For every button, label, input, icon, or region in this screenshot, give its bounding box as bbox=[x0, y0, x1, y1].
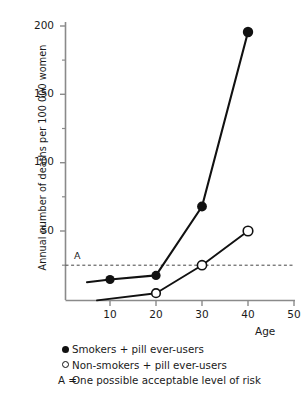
x-tick-label-10: 10 bbox=[95, 308, 125, 320]
y-tick-label-200: 200 bbox=[14, 19, 54, 31]
open-circle-icon bbox=[58, 357, 72, 373]
legend-item-non-smokers: Non-smokers + pill ever-users bbox=[58, 358, 302, 374]
x-axis-ticks bbox=[110, 301, 294, 307]
y-tick-label-50: 50 bbox=[14, 224, 54, 236]
y-tick-label-150: 150 bbox=[14, 87, 54, 99]
chart-figure: Annual number of deaths per 100 000 wome… bbox=[0, 0, 306, 395]
legend-item-smokers: Smokers + pill ever-users bbox=[58, 342, 302, 358]
filled-circle-icon bbox=[58, 341, 72, 357]
legend-label-smokers: Smokers + pill ever-users bbox=[72, 342, 204, 358]
legend-label-acceptable-risk: One possible acceptable level of risk bbox=[72, 373, 261, 389]
x-tick-label-50: 50 bbox=[279, 308, 306, 320]
acceptable-risk-label: A bbox=[74, 250, 81, 261]
series-markers-smokers bbox=[105, 27, 253, 284]
x-tick-label-20: 20 bbox=[141, 308, 171, 320]
y-tick-label-100: 100 bbox=[14, 155, 54, 167]
legend: Smokers + pill ever-users Non-smokers + … bbox=[58, 342, 302, 389]
legend-item-acceptable-risk: A = One possible acceptable level of ris… bbox=[58, 373, 302, 389]
legend-key-a: A = bbox=[58, 373, 72, 389]
x-axis-title: Age bbox=[255, 325, 275, 337]
x-tick-label-40: 40 bbox=[233, 308, 263, 320]
x-tick-label-30: 30 bbox=[187, 308, 217, 320]
legend-label-non-smokers: Non-smokers + pill ever-users bbox=[72, 358, 227, 374]
series-line-smokers bbox=[87, 32, 248, 282]
